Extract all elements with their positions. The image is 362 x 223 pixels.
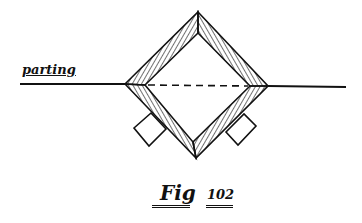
figure-caption-number: 102 xyxy=(207,187,234,202)
lower-right-wall xyxy=(193,86,268,158)
upper-left-wall xyxy=(125,12,198,85)
upper-right-wall xyxy=(198,12,268,86)
lower-left-wall xyxy=(125,84,196,158)
parting-line-right xyxy=(268,86,346,87)
dashed-parting-line xyxy=(148,85,248,86)
caption-underline-fig xyxy=(152,205,190,208)
figure-caption-prefix: Fig xyxy=(160,181,196,205)
parting-label: parting xyxy=(22,62,76,77)
caption-underline-number xyxy=(206,205,233,208)
